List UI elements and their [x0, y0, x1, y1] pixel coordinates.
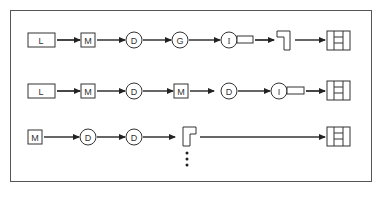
node-i-tab [237, 36, 253, 43]
grid-box [327, 81, 350, 100]
label-d: D [131, 133, 138, 143]
label-m: M [31, 133, 39, 143]
label-i: I [278, 87, 281, 97]
grid-box [327, 31, 350, 50]
node-i-tab [287, 87, 304, 94]
row-2 [28, 81, 350, 100]
vertical-ellipsis-icon [186, 152, 189, 167]
label-d: D [131, 87, 138, 97]
row-1 [28, 31, 350, 50]
label-l: L [38, 87, 43, 97]
grid-box [327, 127, 350, 146]
label-i: I [228, 36, 231, 46]
label-d: D [226, 87, 233, 97]
label-d: D [131, 36, 138, 46]
row-3 [28, 127, 350, 146]
label-l: L [38, 36, 43, 46]
label-m: M [84, 87, 92, 97]
label-d: D [85, 133, 92, 143]
gamma-block [277, 31, 290, 50]
label-g: G [176, 36, 183, 46]
label-m: M [84, 36, 92, 46]
flow-diagram: L M D G I L M D M D I M D D [0, 0, 383, 198]
label-m: M [177, 87, 185, 97]
p-block [183, 127, 196, 146]
